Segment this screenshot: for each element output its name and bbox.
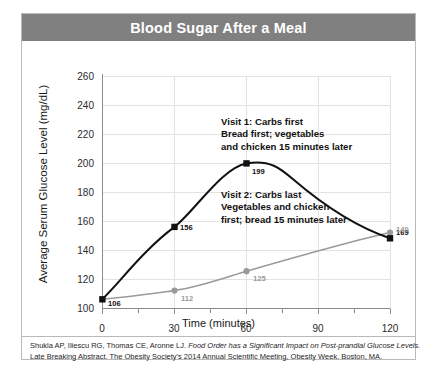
chart-card: Blood Sugar After a Meal Average Serum G… xyxy=(21,13,416,360)
data-label-v2-60: 125 xyxy=(253,274,266,283)
citation-line-1: Shukla AP, Iliescu RG, Thomas CE, Aronne… xyxy=(30,341,407,352)
citation-footer: Shukla AP, Iliescu RG, Thomas CE, Aronne… xyxy=(22,336,415,360)
visit-1-annotation-line-1: Visit 1: Carbs first xyxy=(221,116,352,128)
data-label-v1-0: 106 xyxy=(108,299,121,308)
x-axis-ticks xyxy=(103,309,391,315)
visit-2-annotation-line-1: Visit 2: Carbs last xyxy=(221,189,347,201)
page-title: Blood Sugar After a Meal xyxy=(130,20,307,36)
data-label-v1-30: 156 xyxy=(180,223,193,232)
chart-title-bar: Blood Sugar After a Meal xyxy=(22,14,415,41)
data-label-v1-60: 199 xyxy=(252,167,265,176)
chart-screenshot: Blood Sugar After a Meal Average Serum G… xyxy=(0,0,437,374)
data-label-v2-120: 140 xyxy=(396,225,409,234)
visit-2-annotation: Visit 2: Carbs last Vegetables and chick… xyxy=(221,189,347,226)
visit-1-annotation-line-3: and chicken 15 minutes later xyxy=(221,141,352,153)
citation-article-title: Food Order has a Significant Impact on P… xyxy=(188,341,420,350)
citation-line-2: Late Breaking Abstract. The Obesity Soci… xyxy=(30,352,407,363)
visit-2-annotation-line-3: first; bread 15 minutes later xyxy=(221,214,347,226)
data-label-v2-30: 112 xyxy=(181,294,193,303)
x-axis-title: Time (minutes) xyxy=(22,317,415,329)
visit-1-annotation-line-2: Bread first; vegetables xyxy=(221,128,352,140)
visit-1-annotation: Visit 1: Carbs first Bread first; vegeta… xyxy=(221,116,352,153)
plot-area: Average Serum Glucose Level (mg/dL) 260 … xyxy=(22,41,415,335)
citation-authors: Shukla AP, Iliescu RG, Thomas CE, Aronne… xyxy=(30,341,188,350)
visit-2-annotation-line-2: Vegetables and chicken xyxy=(221,201,347,213)
chart-canvas xyxy=(22,41,415,335)
